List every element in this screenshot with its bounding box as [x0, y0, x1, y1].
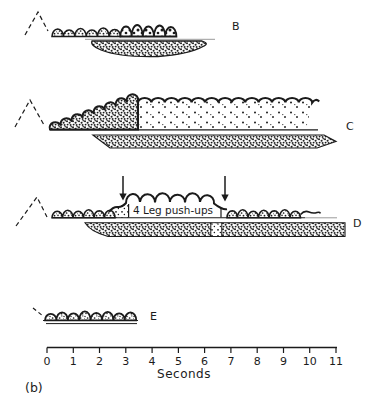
tick-label: 10 [303, 355, 317, 368]
lower-band [92, 41, 207, 57]
figure-b-canvas: B C 4 Leg push-ups [0, 0, 376, 404]
lower-band-gap-stipple [211, 223, 222, 236]
activity-mounds-right [227, 210, 301, 218]
time-axis: 0 1 2 3 4 5 6 7 8 9 10 11 Seconds [44, 348, 344, 381]
wavy-tail-line [301, 211, 321, 214]
rising-ramp [50, 94, 138, 129]
trace-D: 4 Leg push-ups D [16, 176, 361, 237]
activity-mounds-left [52, 210, 115, 218]
figure-panel-b: B C 4 Leg push-ups [0, 0, 376, 404]
tick-label: 2 [96, 355, 103, 368]
lower-band [93, 135, 336, 148]
trace-label: C [346, 120, 354, 133]
trace-label: E [150, 310, 157, 323]
onset-dashed-peak [16, 197, 47, 226]
panel-label: (b) [25, 380, 43, 395]
tick-label: 0 [44, 355, 51, 368]
down-arrowhead-icon [221, 195, 228, 202]
tick-label: 7 [227, 355, 234, 368]
tick-label: 9 [280, 355, 287, 368]
trace-B: B [25, 12, 240, 57]
tick-label: 11 [329, 355, 343, 368]
activity-mounds [45, 311, 136, 320]
trace-C: C [15, 94, 354, 148]
tick-label: 4 [149, 355, 156, 368]
sustained-region-fill [138, 98, 312, 130]
onset-dashed-peak [15, 100, 44, 127]
trace-label: B [232, 20, 240, 33]
push-ups-annotation: 4 Leg push-ups [133, 205, 213, 216]
activity-mounds-left [52, 28, 120, 37]
onset-dash [33, 308, 43, 316]
tick-label: 1 [70, 355, 77, 368]
trace-label: D [353, 217, 361, 230]
tick-label: 3 [122, 355, 129, 368]
axis-unit-label: Seconds [157, 367, 211, 381]
tick-label: 8 [254, 355, 261, 368]
event-arrow-left [119, 176, 126, 201]
onset-dashed-peak [25, 12, 48, 35]
activity-mounds-right [120, 25, 176, 37]
trace-E: E [33, 308, 157, 324]
event-arrow-right [221, 176, 228, 202]
